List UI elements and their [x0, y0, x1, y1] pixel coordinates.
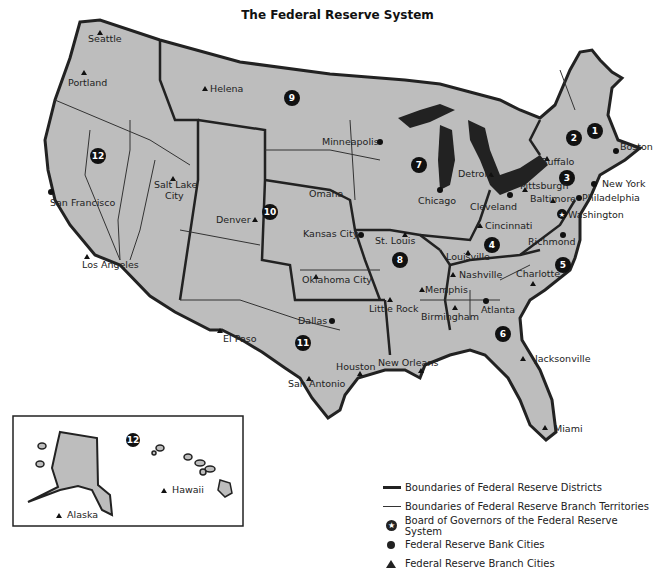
svg-text:Atlanta: Atlanta: [481, 304, 515, 315]
svg-text:10: 10: [264, 207, 277, 217]
svg-text:4: 4: [489, 240, 495, 250]
svg-text:Salt Lake: Salt Lake: [154, 179, 198, 190]
svg-text:★: ★: [559, 211, 565, 219]
svg-text:City: City: [165, 190, 184, 201]
svg-text:Louisville: Louisville: [446, 251, 490, 262]
svg-text:Houston: Houston: [336, 361, 375, 372]
alaska-label: Alaska: [67, 509, 98, 520]
svg-text:New Orleans: New Orleans: [378, 357, 438, 368]
legend-district-boundaries: Boundaries of Federal Reserve Districts: [383, 478, 655, 497]
svg-text:Baltimore: Baltimore: [530, 193, 576, 204]
svg-text:7: 7: [416, 160, 422, 170]
legend-bank-cities: Federal Reserve Bank Cities: [383, 535, 655, 554]
svg-text:Oklahoma City: Oklahoma City: [302, 274, 372, 285]
svg-text:Denver: Denver: [216, 214, 251, 225]
thin-line-icon: [383, 506, 401, 507]
svg-text:Omaha: Omaha: [309, 188, 343, 199]
svg-text:Miami: Miami: [554, 423, 583, 434]
svg-text:8: 8: [397, 255, 403, 265]
svg-text:Memphis: Memphis: [425, 284, 468, 295]
svg-text:1: 1: [592, 126, 598, 136]
svg-text:Pittsburgh: Pittsburgh: [520, 180, 568, 191]
svg-text:Cincinnati: Cincinnati: [485, 220, 532, 231]
svg-text:Boston: Boston: [620, 141, 653, 152]
svg-text:Buffalo: Buffalo: [541, 156, 575, 167]
svg-text:6: 6: [500, 329, 506, 339]
legend-board: ★Board of Governors of the Federal Reser…: [383, 516, 655, 535]
district-8-badge: 8: [392, 252, 408, 268]
svg-text:9: 9: [289, 93, 295, 103]
svg-text:2: 2: [571, 133, 577, 143]
svg-text:Philadelphia: Philadelphia: [582, 192, 640, 203]
svg-text:11: 11: [297, 338, 310, 348]
svg-text:New York: New York: [602, 178, 646, 189]
svg-text:Helena: Helena: [210, 83, 243, 94]
svg-text:Minneapolis: Minneapolis: [322, 136, 379, 147]
hawaii-label: Hawaii: [172, 484, 204, 495]
star-circle-icon: ★: [386, 520, 397, 531]
svg-text:San Francisco: San Francisco: [50, 197, 115, 208]
svg-text:12: 12: [92, 151, 105, 161]
map-legend: Boundaries of Federal Reserve Districts …: [383, 478, 655, 573]
svg-text:Los Angeles: Los Angeles: [82, 259, 139, 270]
district-12-badge: 12: [90, 148, 106, 164]
svg-text:St. Louis: St. Louis: [375, 235, 415, 246]
svg-text:Kansas City: Kansas City: [303, 228, 359, 239]
svg-text:Little Rock: Little Rock: [369, 303, 419, 314]
svg-text:Portland: Portland: [68, 77, 107, 88]
svg-text:Cleveland: Cleveland: [470, 201, 517, 212]
district-10-badge: 10: [262, 204, 278, 220]
district-1-badge: 1: [587, 123, 603, 139]
district-12-inset-badge: 12: [126, 433, 140, 447]
svg-text:Jacksonville: Jacksonville: [534, 353, 591, 364]
district-11-badge: 11: [295, 335, 311, 351]
thick-line-icon: [383, 486, 401, 489]
svg-text:San Antonio: San Antonio: [288, 378, 346, 389]
district-9-badge: 9: [284, 90, 300, 106]
svg-text:El Paso: El Paso: [223, 333, 257, 344]
svg-text:12: 12: [127, 435, 140, 445]
svg-text:Charlotte: Charlotte: [516, 268, 560, 279]
svg-text:Dallas: Dallas: [298, 315, 327, 326]
triangle-icon: [386, 560, 396, 568]
legend-branch-boundaries: Boundaries of Federal Reserve Branch Ter…: [383, 497, 655, 516]
svg-text:Seattle: Seattle: [88, 33, 122, 44]
district-6-badge: 6: [495, 326, 511, 342]
svg-text:Chicago: Chicago: [418, 195, 456, 206]
svg-text:Detroit: Detroit: [458, 168, 491, 179]
svg-text:Birmingham: Birmingham: [421, 311, 479, 322]
svg-text:Washington: Washington: [568, 209, 624, 220]
board-of-governors-marker: ★: [557, 209, 567, 219]
svg-text:5: 5: [560, 260, 566, 270]
svg-text:Richmond: Richmond: [528, 236, 576, 247]
dot-icon: [387, 541, 395, 549]
district-7-badge: 7: [411, 157, 427, 173]
legend-branch-cities: Federal Reserve Branch Cities: [383, 554, 655, 573]
svg-text:Nashville: Nashville: [459, 269, 502, 280]
district-2-badge: 2: [566, 130, 582, 146]
